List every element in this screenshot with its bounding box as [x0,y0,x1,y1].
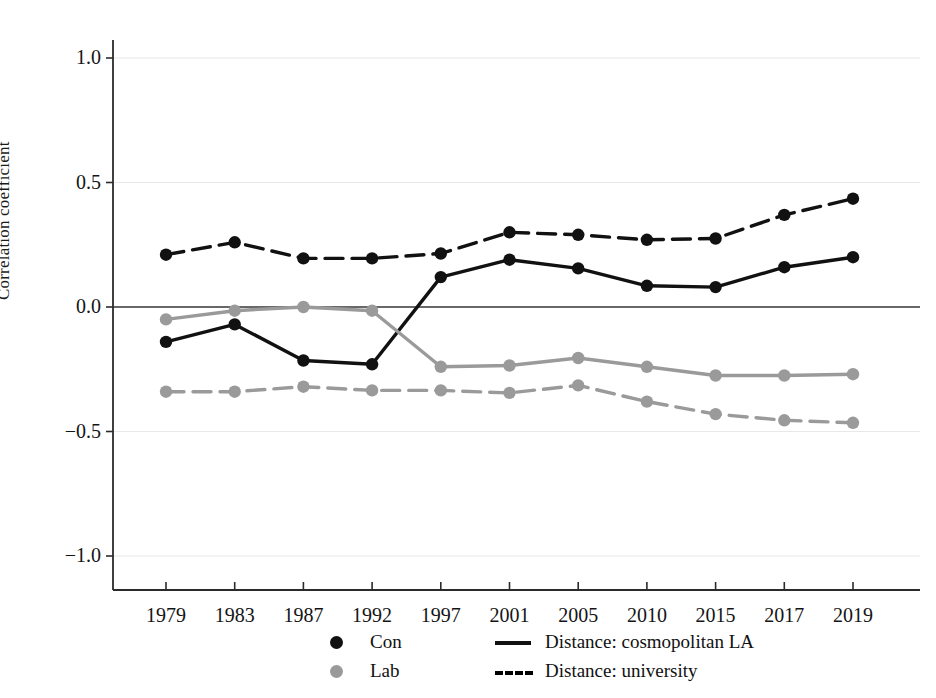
legend-label-lab: Lab [370,660,400,682]
data-point-con-2005 [572,262,584,274]
data-point-distance-university-2010 [641,395,653,407]
data-point-lab-2001 [503,359,515,371]
series-line-con [166,257,853,364]
data-point-distance-university-1979 [160,386,172,398]
data-point-lab-1979 [160,313,172,325]
data-point-distance-university-2017 [778,414,790,426]
data-point-lab-2019 [847,368,859,380]
data-point-lab-1997 [435,361,447,373]
data-point-distance-university-2019 [847,417,859,429]
data-point-distance-cosmopolitan-la-1997 [435,247,447,259]
data-point-distance-cosmopolitan-la-2005 [572,229,584,241]
data-point-con-1987 [297,354,309,366]
legend-label-distance-university: Distance: university [545,660,698,682]
data-point-lab-1987 [297,301,309,313]
legend-label-distance-cosmopolitan-la: Distance: cosmopolitan LA [545,631,754,653]
data-point-con-1979 [160,336,172,348]
data-point-distance-cosmopolitan-la-2010 [641,234,653,246]
legend-entry-lab[interactable]: Lab [318,657,400,684]
legend-label-con: Con [370,631,402,653]
data-point-con-1992 [366,358,378,370]
data-point-distance-cosmopolitan-la-1992 [366,252,378,264]
data-point-lab-1992 [366,305,378,317]
data-point-distance-cosmopolitan-la-1983 [229,236,241,248]
chart-figure: Correlation coefficient 1.00.50.0−0.5−1.… [0,0,936,698]
data-point-distance-university-1983 [229,386,241,398]
data-point-distance-cosmopolitan-la-2001 [503,226,515,238]
data-point-lab-2015 [709,369,721,381]
data-point-con-1997 [435,271,447,283]
data-point-distance-university-1992 [366,384,378,396]
data-point-con-2019 [847,251,859,263]
data-point-distance-university-1997 [435,384,447,396]
lab-marker-icon [318,661,360,681]
data-point-distance-cosmopolitan-la-1979 [160,249,172,261]
data-point-distance-cosmopolitan-la-1987 [297,252,309,264]
data-point-lab-2005 [572,352,584,364]
data-point-distance-university-1987 [297,381,309,393]
legend-entry-distance-cosmopolitan-la[interactable]: Distance: cosmopolitan LA [493,628,754,655]
legend-entry-distance-university[interactable]: Distance: university [493,657,698,684]
data-point-con-2017 [778,261,790,273]
data-point-distance-university-2015 [709,408,721,420]
data-point-con-1983 [229,318,241,330]
plot-area [0,0,936,698]
data-point-con-2015 [709,281,721,293]
data-point-distance-cosmopolitan-la-2017 [778,209,790,221]
legend-entry-con[interactable]: Con [318,628,402,655]
con-marker-icon [318,632,360,652]
chart-legend: Con Lab Distance: cosmopolitan LA Distan… [318,628,838,690]
data-point-distance-cosmopolitan-la-2019 [847,193,859,205]
solid-line-icon [493,632,535,652]
data-point-lab-1983 [229,305,241,317]
data-point-lab-2017 [778,369,790,381]
data-point-distance-university-2005 [572,379,584,391]
data-point-lab-2010 [641,361,653,373]
data-point-distance-cosmopolitan-la-2015 [709,232,721,244]
dashed-line-icon [493,661,535,681]
data-point-con-2010 [641,280,653,292]
data-point-distance-university-2001 [503,387,515,399]
data-point-con-2001 [503,254,515,266]
